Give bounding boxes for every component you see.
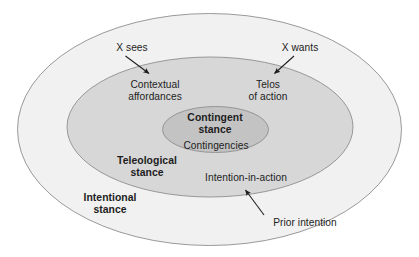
stance-diagram: X sees X wants Prior intention Contextua… — [0, 0, 419, 257]
teleological-stance-line-2: stance — [117, 167, 177, 179]
label-intentional-stance: Intentional stance — [83, 192, 136, 216]
contingent-stance-line-2: stance — [187, 124, 242, 136]
label-contingencies: Contingencies — [183, 140, 248, 152]
label-intention-in-action: Intention-in-action — [205, 172, 287, 184]
contextual-affordances-line-2: affordances — [128, 91, 182, 103]
contingent-stance-line-1: Contingent — [187, 112, 242, 124]
label-telos-of-action: Telos of action — [249, 79, 288, 103]
teleological-stance-line-1: Teleological — [117, 155, 177, 167]
annotation-prior-intention: Prior intention — [273, 217, 337, 229]
intentional-stance-line-1: Intentional — [83, 192, 136, 204]
label-teleological-stance: Teleological stance — [117, 155, 177, 179]
annotation-x-wants: X wants — [282, 42, 319, 54]
telos-of-action-line-2: of action — [249, 91, 288, 103]
annotation-x-sees: X sees — [116, 42, 147, 54]
label-contextual-affordances: Contextual affordances — [128, 79, 182, 103]
telos-of-action-line-1: Telos — [249, 79, 288, 91]
intentional-stance-line-2: stance — [83, 204, 136, 216]
contextual-affordances-line-1: Contextual — [128, 79, 182, 91]
label-contingent-stance: Contingent stance — [187, 112, 242, 136]
